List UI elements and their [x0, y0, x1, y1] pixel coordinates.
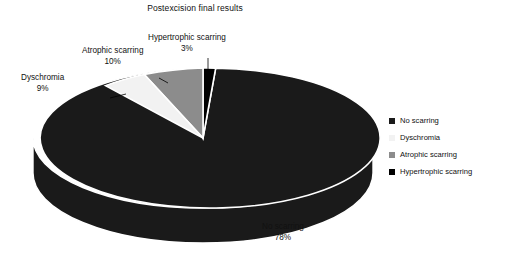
legend-label-hypertrophic-scarring: Hypertrophic scarring	[400, 167, 472, 176]
pie-top-face	[40, 68, 380, 208]
legend-item-no-scarring: No scarring	[389, 112, 515, 129]
legend-label-dyschromia: Dyschromia	[400, 133, 440, 142]
slice-label-dyschromia-pct: 9%	[21, 84, 64, 95]
chart-title: Postexcision final results	[0, 3, 390, 13]
slice-label-dyschromia-name: Dyschromia	[21, 73, 64, 82]
pie-chart: Postexcision final results	[0, 0, 515, 257]
slice-label-no-scarring-pct: 78%	[262, 233, 304, 244]
legend-item-atrophic-scarring: Atrophic scarring	[389, 146, 515, 163]
legend-swatch-no-scarring	[389, 118, 395, 124]
slice-label-atrophic-scarring: Atrophic scarring 10%	[82, 46, 143, 67]
legend-label-no-scarring: No scarring	[400, 116, 439, 125]
slice-label-no-scarring: No scarring 78%	[262, 222, 304, 243]
slice-label-hypertrophic-name: Hypertrophic scarring	[148, 33, 226, 42]
legend-swatch-dyschromia	[389, 135, 395, 141]
slice-label-atrophic-name: Atrophic scarring	[82, 46, 143, 55]
slice-label-dyschromia: Dyschromia 9%	[21, 73, 64, 94]
chart-legend: No scarring Dyschromia Atrophic scarring…	[389, 112, 515, 180]
slice-label-hypertrophic-scarring: Hypertrophic scarring 3%	[148, 33, 226, 54]
legend-item-hypertrophic-scarring: Hypertrophic scarring	[389, 163, 515, 180]
legend-label-atrophic-scarring: Atrophic scarring	[400, 150, 457, 159]
slice-label-hypertrophic-pct: 3%	[148, 44, 226, 55]
pie-plot-area	[18, 26, 388, 248]
pie-svg	[18, 26, 388, 248]
legend-swatch-hypertrophic-scarring	[389, 169, 395, 175]
legend-item-dyschromia: Dyschromia	[389, 129, 515, 146]
slice-label-no-scarring-name: No scarring	[262, 222, 304, 231]
slice-label-atrophic-pct: 10%	[82, 57, 143, 68]
legend-swatch-atrophic-scarring	[389, 152, 395, 158]
